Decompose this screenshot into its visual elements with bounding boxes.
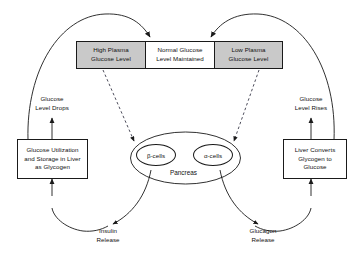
connector-layer — [0, 0, 363, 261]
pancreas-label: Pancreas — [170, 169, 197, 176]
wire-high-plasma-to-beta — [103, 70, 134, 141]
bubble-alpha-cells[interactable]: α-cells — [193, 144, 233, 166]
caption-glucagon-release: GlucagonRelease — [234, 226, 292, 245]
wire-beta-to-insulin — [113, 170, 151, 224]
bubble-beta-cells[interactable]: β-cells — [136, 144, 176, 166]
glucose-state-strip: High PlasmaGlucose Level Normal GlucoseL… — [76, 41, 283, 69]
caption-glucose-level-drops: GlucoseLevel Drops — [22, 94, 82, 113]
caption-insulin-release: InsulinRelease — [82, 226, 134, 245]
box-low-plasma-glucose[interactable]: Low PlasmaGlucose Level — [214, 41, 283, 69]
wire-left-feedback-to-normal — [28, 14, 150, 140]
box-normal-glucose-maintained[interactable]: Normal GlucoseLevel Maintained — [145, 41, 215, 69]
wire-low-plasma-to-alpha — [234, 70, 259, 141]
box-high-plasma-glucose[interactable]: High PlasmaGlucose Level — [76, 41, 146, 69]
wire-alpha-to-glucagon — [220, 170, 258, 224]
box-liver-converts-glycogen[interactable]: Liver ConvertsGlycogen toGlucose — [283, 139, 347, 179]
box-glucose-utilization-storage[interactable]: Glucose Utilizationand Storage in Livera… — [17, 139, 88, 179]
wire-right-feedback-to-normal — [211, 14, 334, 140]
caption-glucose-level-rises: GlucoseLevel Rises — [281, 94, 341, 113]
diagram-canvas: High PlasmaGlucose Level Normal GlucoseL… — [0, 0, 363, 261]
